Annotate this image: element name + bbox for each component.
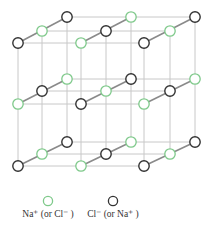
na-ion-green-circle-icon [37,26,47,36]
na-ion-green-circle-icon [37,149,47,159]
cl-ion-black-circle-icon [13,161,23,171]
cl-ion-black-circle-icon [126,74,136,84]
na-ion-green-circle-icon [13,99,23,109]
cl-ion-black-circle-icon [139,161,149,171]
cl-ion-black-circle-icon [139,38,149,48]
cl-ion-black-circle-icon [190,137,200,147]
legend-label-cl: Cl⁻ (or Na⁺ ) [87,209,138,220]
legend-green-circle-icon [43,196,52,205]
na-ion-green-circle-icon [165,149,175,159]
nacl-lattice-diagram: Na⁺ (or Cl⁻ )Cl⁻ (or Na⁺ ) [0,0,213,229]
cl-ion-black-circle-icon [13,38,23,48]
na-ion-green-circle-icon [139,99,149,109]
na-ion-green-circle-icon [76,161,86,171]
na-ion-green-circle-icon [62,74,72,84]
na-ion-green-circle-icon [165,26,175,36]
legend-black-circle-icon [108,196,117,205]
na-ion-green-circle-icon [126,12,136,22]
cl-ion-black-circle-icon [101,149,111,159]
na-ion-green-circle-icon [190,74,200,84]
na-ion-green-circle-icon [126,137,136,147]
cl-ion-black-circle-icon [62,12,72,22]
na-ion-green-circle-icon [101,86,111,96]
cl-ion-black-circle-icon [76,99,86,109]
cl-ion-black-circle-icon [190,12,200,22]
cl-ion-black-circle-icon [101,26,111,36]
cl-ion-black-circle-icon [165,86,175,96]
cl-ion-black-circle-icon [62,137,72,147]
cl-ion-black-circle-icon [37,86,47,96]
na-ion-green-circle-icon [76,38,86,48]
legend-label-na: Na⁺ (or Cl⁻ ) [22,209,73,220]
